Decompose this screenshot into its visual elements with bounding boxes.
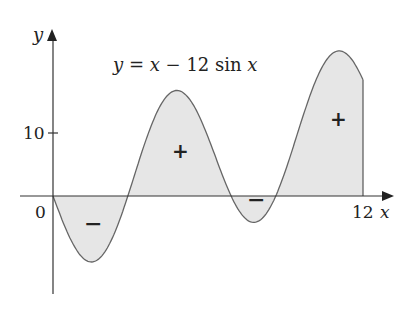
annotation-negative-1: −: [84, 210, 102, 236]
origin-label: 0: [35, 202, 46, 222]
annotation-positive-1: +: [172, 139, 189, 163]
x-axis-arrow-icon: [382, 191, 394, 201]
y-tick-label-10: 10: [23, 123, 45, 143]
chart-svg: y x 10 0 12 y = x − 12 sin x − + − +: [0, 0, 407, 309]
title-x: x: [150, 54, 160, 75]
annotation-negative-2: −: [247, 186, 265, 212]
y-axis-label: y: [32, 24, 44, 45]
chart-container: y x 10 0 12 y = x − 12 sin x − + − +: [0, 0, 407, 309]
title-eq: =: [123, 54, 150, 75]
x-axis-label: x: [380, 202, 390, 222]
title-x2: x: [247, 54, 257, 75]
title-sin: − 12 sin: [160, 54, 247, 75]
y-axis-arrow-icon: [47, 29, 57, 41]
x-tick-label-12: 12: [352, 202, 374, 222]
chart-title: y = x − 12 sin x: [112, 54, 257, 75]
annotation-positive-2: +: [330, 107, 347, 131]
